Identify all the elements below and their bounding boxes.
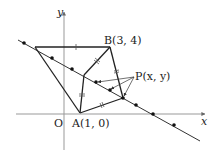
origin-label: O [54, 117, 63, 130]
diagram-canvas: y x O [0, 0, 220, 162]
triangle-APB-2 [80, 47, 125, 113]
top-segment [35, 44, 110, 50]
x-axis-label: x [201, 115, 208, 128]
p-pointer-arrows [98, 77, 134, 96]
point-p-label: P(x, y) [135, 70, 170, 83]
y-axis-label: y [56, 6, 64, 19]
point-a-label: A(1, 0) [71, 117, 110, 130]
triangle-APB-1 [79, 47, 110, 113]
left-segment [35, 47, 80, 113]
point-b-label: B(3, 4) [104, 34, 142, 47]
